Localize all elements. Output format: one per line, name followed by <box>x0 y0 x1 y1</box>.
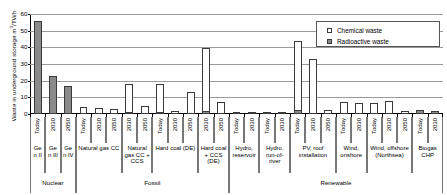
legend-label-radioactive-waste: Radioactive waste <box>337 38 389 45</box>
bar[interactable] <box>49 14 57 114</box>
x-axis-year-label-text: 2030 <box>172 118 178 131</box>
divider <box>152 143 153 173</box>
bar[interactable] <box>278 14 286 114</box>
bar-slot <box>45 14 60 114</box>
x-axis-technology-label: Gen IV <box>61 143 76 173</box>
divider <box>351 117 352 143</box>
divider <box>76 143 77 173</box>
y-axis-title: Waste in underground storage m3/TWh <box>9 1 17 131</box>
x-axis-year-label-text: 2050 <box>187 118 193 131</box>
bar[interactable] <box>64 14 72 114</box>
bar-segment-chemical-waste <box>355 103 363 114</box>
bar-segment-radioactive-waste <box>49 76 57 114</box>
x-axis-year-label-text: 2030 <box>279 118 285 131</box>
divider <box>290 143 291 173</box>
x-axis-year-label: Today <box>367 117 382 143</box>
bar[interactable] <box>156 14 164 114</box>
x-axis-year-label: Today <box>152 117 167 143</box>
bar[interactable] <box>248 14 256 114</box>
bar-slot <box>214 14 229 114</box>
x-axis-category-label-text: Fossil <box>144 173 160 186</box>
divider <box>106 117 107 143</box>
x-axis-year-label: 2050 <box>321 117 336 143</box>
divider <box>442 173 443 193</box>
divider <box>30 173 31 193</box>
x-axis-year-label: Today <box>290 117 305 143</box>
x-axis-year-label: Today <box>30 117 45 143</box>
x-axis-technology-label: PV, roof installation <box>290 143 336 173</box>
x-axis-year-label: 2030 <box>244 117 259 143</box>
bar[interactable] <box>34 14 42 114</box>
x-axis-technology-label-text: PV, roof installation <box>292 143 334 158</box>
bar[interactable] <box>233 14 241 114</box>
x-axis-technology-label-text: Gen II <box>32 143 43 158</box>
divider <box>76 173 77 193</box>
legend-item-radioactive-waste: Radioactive waste <box>327 36 439 46</box>
bar[interactable] <box>187 14 195 114</box>
x-axis-year-label-text: Today <box>294 118 300 134</box>
divider <box>214 117 215 143</box>
divider <box>321 117 322 143</box>
bar[interactable] <box>80 14 88 114</box>
bar-slot <box>61 14 76 114</box>
bar[interactable] <box>171 14 179 114</box>
bar-segment-chemical-waste <box>385 101 393 114</box>
bar-segment-radioactive-waste <box>34 21 42 114</box>
divider <box>76 117 77 143</box>
divider <box>442 143 443 173</box>
y-axis-title-text: Waste in underground storage m <box>10 28 17 121</box>
x-axis-year-label-text: 2050 <box>111 118 117 131</box>
x-axis-technology-label-text: Biogas CHP <box>414 143 441 158</box>
x-axis-year-label-text: Today <box>157 118 163 134</box>
bar-segment-radioactive-waste <box>64 86 72 114</box>
bar[interactable] <box>141 14 149 114</box>
bar[interactable] <box>95 14 103 114</box>
x-axis-category-label: Fossil <box>76 173 229 193</box>
x-axis-year-label-text: Today <box>340 118 346 134</box>
bar-slot <box>137 14 152 114</box>
x-axis-year-label-text: Today <box>233 118 239 134</box>
bar-segment-chemical-waste <box>187 92 195 115</box>
x-axis-year-label: 2050 <box>137 117 152 143</box>
divider <box>30 143 31 173</box>
bar[interactable] <box>110 14 118 114</box>
divider <box>45 143 46 173</box>
x-axis-year-label-text: 2030 <box>356 118 362 131</box>
x-axis-year-label-text: Today <box>80 118 86 134</box>
divider <box>122 143 123 173</box>
x-axis-technology-label: Hard coal (DE) <box>152 143 198 173</box>
x-axis-category-label-text: Nuclear <box>42 173 63 186</box>
x-axis-year-label: 2050 <box>61 117 76 143</box>
x-axis-category-label-text: Renewable <box>320 173 351 186</box>
bar[interactable] <box>294 14 302 114</box>
bar[interactable] <box>263 14 271 114</box>
bar[interactable] <box>125 14 133 114</box>
y-axis-tick-label: 40 <box>21 44 28 50</box>
x-axis-technology-label: Wind, onshore <box>336 143 367 173</box>
x-axis-category-label: Renewable <box>229 173 443 193</box>
x-axis-year-label-text: 2050 <box>142 118 148 131</box>
y-axis-tick-label: 20 <box>21 78 28 84</box>
bar-slot <box>275 14 290 114</box>
bar-slot <box>91 14 106 114</box>
bar[interactable] <box>217 14 225 114</box>
divider <box>367 117 368 143</box>
divider <box>397 117 398 143</box>
divider <box>152 117 153 143</box>
divider <box>30 117 31 143</box>
bar-slot <box>259 14 274 114</box>
bar-segment-chemical-waste <box>370 103 378 114</box>
x-axis-category-label: Nuclear <box>30 173 76 193</box>
divider <box>229 117 230 143</box>
x-axis-year-label: 2030 <box>168 117 183 143</box>
bar-slot <box>290 14 305 114</box>
bar[interactable] <box>202 14 210 114</box>
divider <box>244 117 245 143</box>
x-axis-year-label: 2030 <box>275 117 290 143</box>
legend-item-chemical-waste: Chemical waste <box>327 25 439 35</box>
x-axis-technology-label-text: Natural gas CC <box>78 143 119 152</box>
x-axis-year-label: 2050 <box>397 117 412 143</box>
divider <box>61 143 62 173</box>
x-axis-technology-label-text: Gen IV <box>63 143 74 158</box>
y-axis-tick-label: 30 <box>21 61 28 67</box>
